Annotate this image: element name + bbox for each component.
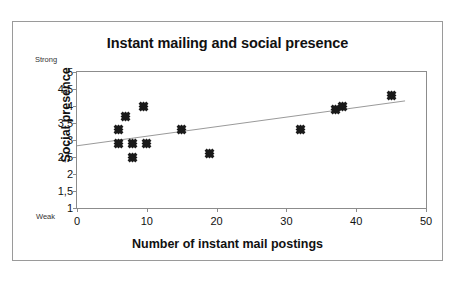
y-tick-mark [73,174,77,175]
y-tick-label: 1,5 [58,185,73,197]
x-tick-label: 0 [74,215,80,227]
y-tick-mark [73,72,77,73]
x-tick-mark [356,208,357,212]
y-tick-mark [73,191,77,192]
x-tick-label: 40 [350,215,362,227]
data-point [337,101,347,111]
data-point [121,111,131,121]
data-point [138,101,148,111]
y-axis-anchor-strong: Strong [35,55,57,64]
data-point [114,138,124,148]
x-tick-label: 10 [141,215,153,227]
y-tick-mark [73,106,77,107]
data-point [205,149,215,159]
y-tick-label: 4,5 [58,83,73,95]
x-tick-mark [217,208,218,212]
data-point [128,152,138,162]
x-tick-mark [426,208,427,212]
y-tick-mark [73,89,77,90]
x-tick-label: 20 [210,215,222,227]
y-tick-label: 2,5 [58,151,73,163]
y-axis-anchor-weak: Weak [36,212,55,221]
y-tick-mark [73,157,77,158]
x-axis-title: Number of instant mail postings [13,237,442,251]
x-tick-mark [147,208,148,212]
x-tick-label: 50 [420,215,432,227]
plot-area: 11,522,533,544,5501020304050 [76,71,427,209]
chart-frame: Instant mailing and social presence Stro… [12,21,443,261]
data-point [386,91,396,101]
data-point [142,138,152,148]
y-tick-mark [73,123,77,124]
x-tick-mark [77,208,78,212]
chart-screenshot: Instant mailing and social presence Stro… [0,0,455,284]
y-tick-mark [73,140,77,141]
chart-title: Instant mailing and social presence [13,35,442,51]
data-point [128,138,138,148]
x-tick-mark [286,208,287,212]
data-point [295,125,305,135]
x-tick-label: 30 [280,215,292,227]
y-tick-label: 3,5 [58,117,73,129]
